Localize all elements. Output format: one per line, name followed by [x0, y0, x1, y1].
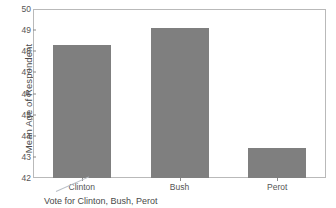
bar-chart-figure: Mean Age of Respondent 42434445464748495…	[0, 0, 336, 208]
y-tick-mark	[33, 156, 36, 157]
y-tick-label: 44	[14, 131, 31, 141]
y-tick-label: 50	[14, 4, 31, 14]
y-tick-label: 47	[14, 67, 31, 77]
x-tick-label: Bush	[170, 182, 189, 192]
y-tick-mark	[33, 114, 36, 115]
bar	[53, 45, 111, 178]
bar	[151, 28, 209, 178]
y-tick-label: 45	[14, 110, 31, 120]
y-tick-mark	[33, 135, 36, 136]
y-tick-label: 48	[14, 46, 31, 56]
y-tick-mark	[33, 93, 36, 94]
y-tick-mark	[33, 72, 36, 73]
bar	[248, 148, 306, 178]
x-tick-label: Perot	[267, 182, 287, 192]
x-tick-mark	[277, 178, 278, 181]
bars-layer	[33, 9, 326, 178]
y-tick-mark	[33, 51, 36, 52]
x-axis-title: Vote for Clinton, Bush, Perot	[44, 196, 158, 206]
y-tick-label: 49	[14, 25, 31, 35]
y-tick-label: 42	[14, 173, 31, 183]
y-tick-label: 46	[14, 89, 31, 99]
y-tick-mark	[33, 30, 36, 31]
x-tick-mark	[180, 178, 181, 181]
y-axis-tick-labels: 424344454647484950	[14, 9, 31, 178]
y-tick-label: 43	[14, 152, 31, 162]
